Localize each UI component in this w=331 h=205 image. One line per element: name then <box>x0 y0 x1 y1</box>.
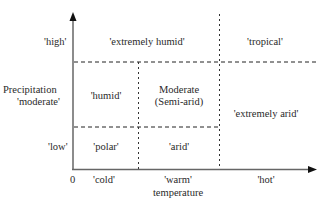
x-tick-warm: 'warm' <box>164 174 192 186</box>
x-axis-arrow-icon <box>308 166 317 173</box>
y-tick-moderate: 'moderate' <box>17 96 60 108</box>
x-axis-label: temperature <box>153 187 203 199</box>
cell-polar: 'polar' <box>93 141 118 153</box>
y-axis-arrow-icon <box>70 12 77 21</box>
x-tick-hot: 'hot' <box>257 174 274 186</box>
y-axis-label: Precipitation <box>3 84 57 96</box>
cell-moderate-line1: Moderate <box>159 84 199 96</box>
cell-arid: 'arid' <box>169 141 189 153</box>
cell-tropical: 'tropical' <box>247 36 283 48</box>
cell-humid: 'humid' <box>91 90 122 102</box>
cell-extremely-humid: 'extremely humid' <box>109 36 184 48</box>
x-tick-cold: 'cold' <box>93 174 115 186</box>
origin-label: 0 <box>70 174 75 186</box>
y-tick-low: 'low' <box>48 141 68 153</box>
cell-moderate-line2: (Semi-arid) <box>155 96 203 108</box>
y-tick-high: 'high' <box>44 36 66 48</box>
cell-extremely-arid: 'extremely arid' <box>234 108 299 120</box>
